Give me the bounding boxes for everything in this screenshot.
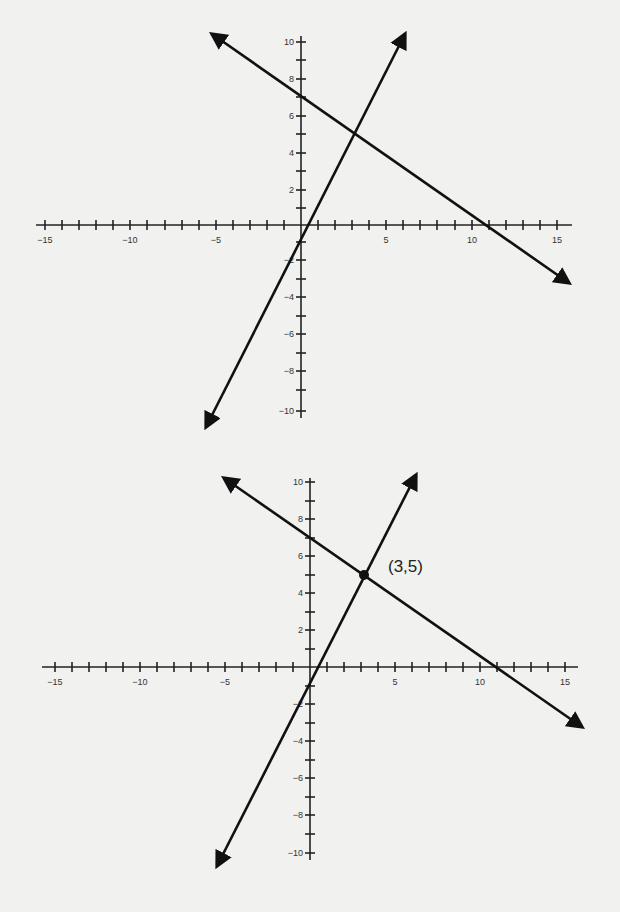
x-tick-label: 10 xyxy=(467,235,477,245)
y-tick-label: 4 xyxy=(298,588,303,598)
x-tick-label: −15 xyxy=(37,235,52,245)
x-tick-label: −5 xyxy=(211,235,221,245)
y-tick-label: −6 xyxy=(293,773,303,783)
intersection-point xyxy=(359,570,369,580)
y-tick-label: −8 xyxy=(293,810,303,820)
charts-canvas: −15 −10 −5 5 10 15 10 8 6 4 2 −2 −4 −6 −… xyxy=(0,0,620,912)
x-tick-label: −10 xyxy=(132,677,147,687)
y-tick-label: −6 xyxy=(284,329,294,339)
y-tick-label: 2 xyxy=(298,625,303,635)
line-positive-slope xyxy=(206,34,405,427)
y-tick-label: −4 xyxy=(293,736,303,746)
x-tick-label: 15 xyxy=(552,235,562,245)
x-tick-label: −10 xyxy=(122,235,137,245)
y-tick-label: −8 xyxy=(284,366,294,376)
y-tick-label: 8 xyxy=(289,74,294,84)
y-tick-label: 10 xyxy=(284,37,294,47)
line-positive-slope xyxy=(217,475,416,866)
line-negative-slope xyxy=(212,34,569,283)
x-tick-label: 15 xyxy=(560,677,570,687)
y-tick-label: 2 xyxy=(289,185,294,195)
y-tick-label: 8 xyxy=(298,514,303,524)
line-negative-slope xyxy=(224,478,582,727)
y-tick-label: −10 xyxy=(279,406,294,416)
y-tick-label: 6 xyxy=(289,111,294,121)
x-tick-label: −15 xyxy=(47,677,62,687)
graph-bottom: −15 −10 −5 5 10 15 10 8 6 4 2 −2 −4 −6 −… xyxy=(42,475,582,866)
intersection-label: (3,5) xyxy=(388,557,423,576)
y-axis-labels: 10 8 6 4 2 −2 −4 −6 −8 −10 xyxy=(279,37,294,416)
y-tick-label: 4 xyxy=(289,148,294,158)
x-tick-label: −5 xyxy=(220,677,230,687)
x-tick-label: 5 xyxy=(383,235,388,245)
y-tick-label: −10 xyxy=(288,848,303,858)
y-tick-label: −4 xyxy=(284,292,294,302)
graph-top: −15 −10 −5 5 10 15 10 8 6 4 2 −2 −4 −6 −… xyxy=(36,34,572,427)
y-tick-label: 10 xyxy=(293,477,303,487)
x-tick-label: 5 xyxy=(392,677,397,687)
y-tick-label: 6 xyxy=(298,551,303,561)
x-tick-label: 10 xyxy=(475,677,485,687)
